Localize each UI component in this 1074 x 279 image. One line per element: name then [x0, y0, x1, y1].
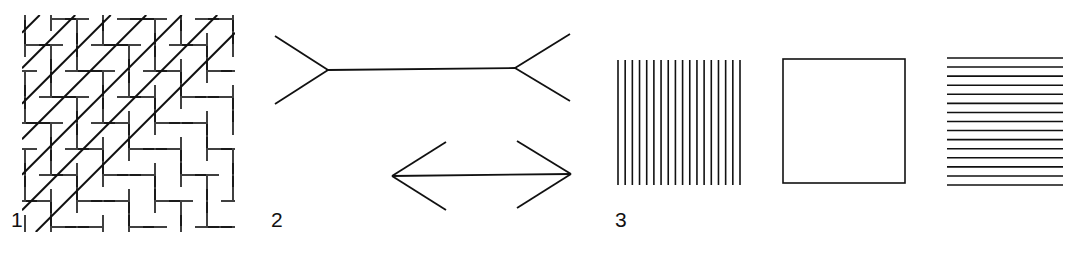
helmholtz-square-illusion-drawing	[0, 0, 1074, 279]
horizontal-striped-square	[947, 58, 1063, 185]
optical-illusion-figure-plate: 1 2 3	[0, 0, 1074, 279]
outline-square	[783, 59, 905, 183]
figure-panel-helmholtz-squares: 3	[590, 0, 1074, 279]
vertical-striped-square	[618, 60, 740, 185]
outline-square-border	[783, 59, 905, 183]
figure-label-3: 3	[615, 209, 627, 230]
